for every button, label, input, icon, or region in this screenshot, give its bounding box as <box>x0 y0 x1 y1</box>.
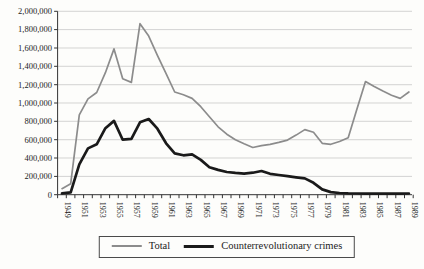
svg-text:1985: 1985 <box>375 202 384 218</box>
legend-label-counterrevolutionary: Counterrevolutionary crimes <box>221 241 342 252</box>
svg-text:1957: 1957 <box>132 202 141 218</box>
svg-text:800,000: 800,000 <box>24 116 52 126</box>
legend-label-total: Total <box>149 241 170 252</box>
crime-statistics-line-chart-figure: 0200,000400,000600,000800,0001,000,0001,… <box>0 0 424 269</box>
svg-text:1953: 1953 <box>98 202 107 218</box>
svg-text:1959: 1959 <box>150 202 159 218</box>
svg-text:1949: 1949 <box>63 202 72 218</box>
svg-text:1973: 1973 <box>271 202 280 218</box>
legend-item-counterrevolutionary: Counterrevolutionary crimes <box>184 241 342 252</box>
svg-text:1955: 1955 <box>115 202 124 218</box>
svg-text:1975: 1975 <box>289 202 298 218</box>
svg-text:1951: 1951 <box>80 202 89 218</box>
svg-text:1977: 1977 <box>306 202 315 218</box>
svg-text:0: 0 <box>48 190 52 200</box>
svg-text:1961: 1961 <box>167 202 176 218</box>
svg-text:1,600,000: 1,600,000 <box>18 43 52 53</box>
counterrevolutionary-line-swatch <box>184 245 214 248</box>
svg-text:1967: 1967 <box>219 202 228 218</box>
svg-text:600,000: 600,000 <box>24 135 52 145</box>
svg-text:1,400,000: 1,400,000 <box>18 61 52 71</box>
svg-text:1979: 1979 <box>323 202 332 218</box>
svg-text:200,000: 200,000 <box>24 171 52 181</box>
svg-text:1,000,000: 1,000,000 <box>18 98 52 108</box>
legend: Total Counterrevolutionary crimes <box>99 236 355 258</box>
total-line-swatch <box>112 245 142 247</box>
svg-text:1983: 1983 <box>358 202 367 218</box>
svg-text:1971: 1971 <box>254 202 263 218</box>
svg-text:1989: 1989 <box>410 202 419 218</box>
svg-text:2,000,000: 2,000,000 <box>18 6 52 16</box>
svg-text:1,800,000: 1,800,000 <box>18 24 52 34</box>
svg-text:1963: 1963 <box>184 202 193 218</box>
svg-text:1981: 1981 <box>341 202 350 218</box>
line-chart-plot-area: 0200,000400,000600,000800,0001,000,0001,… <box>0 0 424 232</box>
svg-text:1987: 1987 <box>393 202 402 218</box>
svg-text:1965: 1965 <box>202 202 211 218</box>
svg-text:1,200,000: 1,200,000 <box>18 80 52 90</box>
svg-text:400,000: 400,000 <box>24 153 52 163</box>
svg-text:1969: 1969 <box>236 202 245 218</box>
legend-item-total: Total <box>112 241 170 252</box>
